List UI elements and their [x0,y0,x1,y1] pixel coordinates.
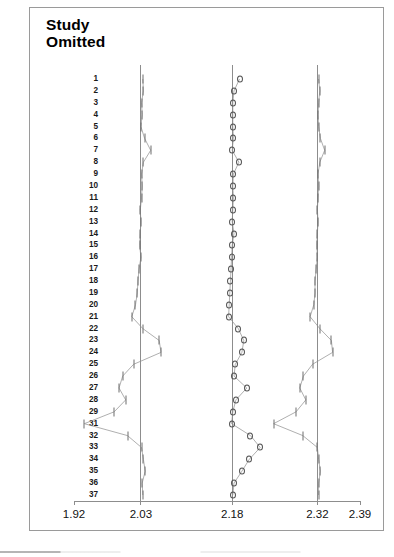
study-row-label: 27 [89,384,98,392]
plot-area: 1234567891011121314151617181920212223242… [29,7,384,531]
study-row-label: 16 [89,253,98,261]
ci-lower-tick [141,193,142,202]
ci-upper-tick [318,193,319,202]
ci-lower-tick [125,395,126,404]
study-row-label: 34 [89,455,98,463]
study-row-label: 14 [89,230,98,238]
ci-upper-tick [324,146,325,155]
ci-upper-tick [296,407,297,416]
ci-lower-tick [142,479,143,488]
x-axis-tick [360,501,361,505]
study-row-label: 32 [89,432,98,440]
ci-upper-tick [303,372,304,381]
study-row-label: 21 [89,313,98,321]
ci-lower-tick [142,324,143,333]
study-row-label: 4 [93,111,98,119]
point-estimate-marker [230,194,236,201]
point-estimate-marker [226,313,232,320]
ci-lower-tick [140,122,141,131]
point-estimate-marker [232,361,238,368]
point-estimate-marker [236,159,242,166]
point-estimate-marker [230,492,236,499]
ci-lower-tick [119,384,120,393]
ci-upper-tick [312,360,313,369]
x-axis-tick [140,501,141,505]
point-estimate-marker [231,230,237,237]
ci-upper-tick [314,288,315,297]
ci-upper-tick [332,348,333,357]
ci-upper-tick [318,479,319,488]
forest-plot-figure: Study Omitted 12345678910111213141516171… [0,0,394,557]
study-row-label: 26 [89,372,98,380]
ci-upper-tick [320,134,321,143]
study-row-label: 20 [89,301,98,309]
point-estimate-marker [231,87,237,94]
ci-lower-tick [145,467,146,476]
ci-upper-tick [331,336,332,345]
ci-upper-tick [273,419,274,428]
point-estimate-marker [231,480,237,487]
study-row-label: 31 [89,420,98,428]
point-estimate-marker [235,325,241,332]
point-estimate-marker [239,468,245,475]
ci-upper-tick [318,181,319,190]
study-row-label: 19 [89,289,98,297]
point-estimate-marker [229,147,235,154]
ci-lower-tick [84,419,85,428]
x-axis-tick-label: 2.32 [306,508,328,520]
point-estimate-marker [229,254,235,261]
ci-lower-tick [139,241,140,250]
study-row-label: 29 [89,408,98,416]
study-row-label: 22 [89,325,98,333]
ci-upper-tick [317,229,318,238]
study-row-label: 8 [93,158,98,166]
point-estimate-marker [227,289,233,296]
ci-lower-tick [127,431,128,440]
ci-lower-tick [140,253,141,262]
ci-upper-tick [318,170,319,179]
point-estimate-marker [239,349,245,356]
ci-upper-tick [318,75,319,84]
x-axis-tick [317,501,318,505]
study-row-label: 23 [89,336,98,344]
ci-upper-tick [302,431,303,440]
point-estimate-marker [230,206,236,213]
x-axis-tick [74,501,75,505]
scan-edge-artifact [0,551,394,553]
study-row-label: 28 [89,396,98,404]
ci-lower-tick [142,75,143,84]
x-axis-tick [232,501,233,505]
ci-lower-tick [114,407,115,416]
point-estimate-marker [246,456,252,463]
study-row-label: 37 [89,491,98,499]
point-estimate-marker [244,385,250,392]
ci-lower-tick [144,134,145,143]
point-estimate-marker [241,337,247,344]
ci-upper-tick [316,265,317,274]
point-estimate-marker [230,123,236,130]
study-row-label: 9 [93,170,98,178]
ci-upper-tick [317,443,318,452]
study-row-label: 7 [93,146,98,154]
ci-lower-tick [143,455,144,464]
ci-lower-tick [159,336,160,345]
study-row-label: 3 [93,99,98,107]
study-row-label: 24 [89,348,98,356]
point-estimate-marker [247,432,253,439]
point-estimate-marker [237,76,243,83]
study-row-label: 17 [89,265,98,273]
ci-upper-tick [318,98,319,107]
study-row-label: 12 [89,206,98,214]
study-row-label: 11 [89,194,98,202]
point-estimate-marker [230,182,236,189]
ci-lower-tick [140,217,141,226]
point-estimate-marker [229,242,235,249]
ci-upper-tick [317,253,318,262]
ci-lower-tick [122,372,123,381]
study-row-label: 13 [89,218,98,226]
ci-upper-tick [318,491,319,500]
x-axis-tick-label: 2.03 [130,508,152,520]
study-row-label: 10 [89,182,98,190]
x-axis-tick-label: 1.92 [63,508,85,520]
point-estimate-marker [231,373,237,380]
